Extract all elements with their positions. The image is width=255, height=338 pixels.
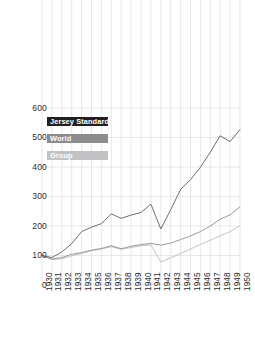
x-tick-label-1945: 1945 (186, 291, 195, 335)
x-tick-label-1932: 1932 (57, 291, 66, 335)
x-tick-label-1936: 1936 (97, 291, 106, 335)
x-tick-label-1947: 1947 (206, 291, 215, 335)
y-tick-label-300: 300 (7, 192, 47, 201)
legend-label-world: World (50, 134, 71, 143)
x-tick-label-1938: 1938 (117, 291, 126, 335)
x-tick-label-1950: 1950 (236, 291, 245, 335)
x-tick-label-1946: 1946 (196, 291, 205, 335)
y-tick-label-400: 400 (7, 163, 47, 172)
x-tick-label-1931: 1931 (47, 291, 56, 335)
x-tick-label-1949: 1949 (226, 291, 235, 335)
x-tick-label-1941: 1941 (146, 291, 155, 335)
chart-legend: Jersey Standard World Group (47, 117, 108, 168)
legend-item-group[interactable]: Group (47, 151, 108, 160)
x-tick-label-1939: 1939 (127, 291, 136, 335)
legend-item-world[interactable]: World (47, 134, 108, 143)
x-tick-label-1930: 1930 (38, 291, 47, 335)
x-tick-label-1933: 1933 (67, 291, 76, 335)
legend-item-jersey-standard[interactable]: Jersey Standard (47, 117, 108, 126)
y-tick-label-0: 0 (7, 281, 47, 290)
x-tick-label-1935: 1935 (87, 291, 96, 335)
x-tick-label-1940: 1940 (137, 291, 146, 335)
x-tick-label-1942: 1942 (156, 291, 165, 335)
x-tick-label-1937: 1937 (107, 291, 116, 335)
line-chart: 0100200300400500600 19301931193219331934… (0, 0, 255, 338)
y-tick-label-500: 500 (7, 133, 47, 142)
y-tick-label-200: 200 (7, 222, 47, 231)
y-tick-label-600: 600 (7, 104, 47, 113)
y-tick-label-100: 100 (7, 251, 47, 260)
legend-label-group: Group (50, 151, 73, 160)
legend-label-jersey-standard: Jersey Standard (50, 117, 109, 126)
x-tick-label-1943: 1943 (166, 291, 175, 335)
x-tick-label-1934: 1934 (77, 291, 86, 335)
x-tick-label-1948: 1948 (216, 291, 225, 335)
x-tick-label-1944: 1944 (176, 291, 185, 335)
